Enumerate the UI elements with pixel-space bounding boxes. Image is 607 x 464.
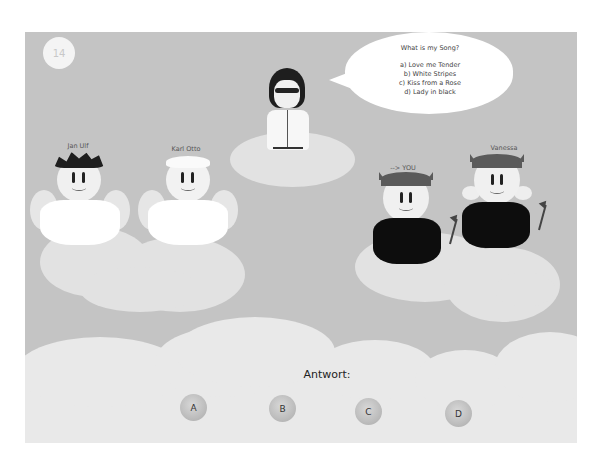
player-name-vanessa: Vanessa (464, 144, 544, 152)
spiky-hair (54, 152, 104, 168)
eye-right (500, 174, 503, 185)
host-character (263, 68, 323, 163)
smile (181, 185, 195, 191)
answer-button-d[interactable]: D (445, 400, 472, 427)
cloud-right-3 (495, 272, 555, 307)
quiz-question: What is my Song? (355, 44, 505, 53)
eye-left (72, 172, 75, 183)
player-vanessa[interactable] (462, 152, 562, 268)
devil-tail-icon (538, 205, 547, 231)
smile (490, 188, 504, 194)
player-jan-ulf[interactable] (30, 150, 130, 245)
devil-shirt (462, 202, 530, 248)
devil-hair (381, 172, 431, 186)
devil-shirt (373, 218, 441, 264)
angel-shirt (148, 200, 228, 245)
quiz-option-d: d) Lady in black (355, 88, 505, 97)
quiz-option-b: b) White Stripes (355, 70, 505, 79)
cloud-left-3 (80, 267, 200, 312)
eye-right (191, 172, 194, 183)
player-karl-otto[interactable] (138, 152, 238, 245)
host-face (274, 80, 300, 108)
game-stage: 14 What is my Song? a) Love me Tender b)… (25, 32, 577, 443)
devil-hair (472, 154, 522, 168)
quiz-option-c: c) Kiss from a Rose (355, 79, 505, 88)
devil-tail-arrow (539, 198, 550, 209)
answer-button-b[interactable]: B (269, 395, 296, 422)
host-shirt (267, 110, 309, 150)
host-zipper (287, 110, 288, 148)
halo-hair (166, 156, 210, 168)
answer-button-c[interactable]: C (355, 398, 382, 425)
angel-shirt (40, 200, 120, 245)
sunglasses-icon (275, 88, 299, 93)
quiz-option-a: a) Love me Tender (355, 61, 505, 70)
smile (72, 185, 86, 191)
answer-button-a[interactable]: A (180, 394, 207, 421)
eye-right (82, 172, 85, 183)
smile (399, 205, 413, 211)
player-name-jan-ulf: Jan Ulf (38, 142, 118, 150)
eye-left (491, 174, 494, 185)
devil-tail-arrow (450, 212, 461, 223)
host-belt (273, 147, 303, 149)
round-number-badge: 14 (43, 37, 75, 69)
eye-left (181, 172, 184, 183)
eye-left (400, 192, 403, 203)
speech-bubble-text: What is my Song? a) Love me Tender b) Wh… (355, 44, 505, 97)
player-name-you: --> YOU (363, 164, 443, 172)
answer-label: Antwort: (277, 368, 377, 381)
eye-right (409, 192, 412, 203)
player-you[interactable] (373, 172, 463, 264)
devil-tail-icon (449, 219, 458, 245)
